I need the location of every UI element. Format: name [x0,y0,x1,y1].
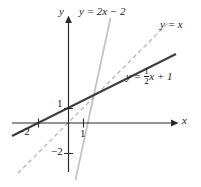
graph-figure: y x 1 −2 1 −2 y = 2x − 2 y = x y = 12x +… [0,0,201,187]
x-axis-label: x [182,115,187,126]
x-tick-label-1: 1 [80,128,86,139]
y-axis-label: y [59,6,64,17]
label-line-y-equals-half-x-plus-1: y = 12x + 1 [126,67,173,86]
x-axis-arrow-icon [171,120,179,127]
x-tick-label-neg-2: −2 [18,126,30,137]
label-half-prefix: y = [126,70,144,82]
y-tick-label-neg-2: −2 [51,146,63,157]
label-line-y-equals-x: y = x [160,19,183,30]
line-y-equals-x [18,23,168,173]
y-axis-arrow-icon [65,16,72,24]
label-half-suffix: x + 1 [149,70,172,82]
line-y-equals-2x-minus-2 [76,18,111,180]
label-line-y-equals-2x-minus-2: y = 2x − 2 [79,6,126,17]
y-tick-label-1: 1 [57,98,63,109]
